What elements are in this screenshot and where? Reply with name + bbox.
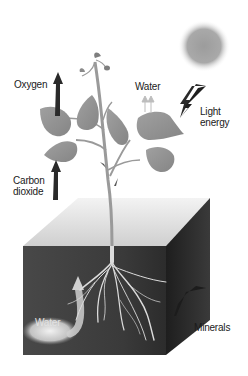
water-transpiration-label: Water bbox=[135, 81, 160, 92]
light-label-line2: energy bbox=[200, 117, 229, 128]
leaves bbox=[40, 95, 184, 172]
water-vapor-arrows-icon bbox=[142, 96, 154, 112]
carbon-dioxide-label-line2: dioxide bbox=[13, 186, 43, 197]
sun-icon bbox=[178, 20, 230, 72]
carbon-dioxide-label-line1: Carbon bbox=[13, 175, 45, 186]
oxygen-label: Oxygen bbox=[14, 79, 47, 90]
minerals-label: Minerals bbox=[194, 322, 230, 333]
carbon-dioxide-arrow-icon bbox=[51, 160, 61, 200]
flower-bud bbox=[94, 52, 101, 58]
light-label-line1: Light bbox=[200, 106, 221, 117]
photosynthesis-diagram: Oxygen Water Light energy Carbon dioxide… bbox=[0, 0, 248, 376]
water-uptake-label: Water bbox=[35, 317, 60, 328]
